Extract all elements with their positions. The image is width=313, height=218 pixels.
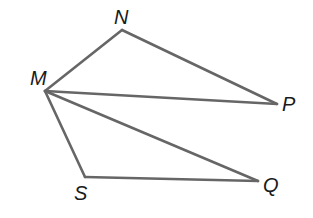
segment-MS — [45, 91, 85, 177]
geometry-diagram: M N P S Q — [0, 0, 313, 218]
labels-group: M N P S Q — [30, 6, 296, 204]
segments-group — [45, 30, 277, 181]
label-S: S — [74, 182, 88, 204]
label-P: P — [282, 93, 296, 115]
segment-SQ — [85, 177, 258, 181]
label-M: M — [30, 67, 47, 89]
segment-NP — [122, 30, 277, 104]
label-Q: Q — [263, 174, 279, 196]
segment-MN — [45, 30, 122, 91]
segment-MP — [45, 91, 277, 104]
label-N: N — [114, 6, 129, 28]
segment-MQ — [45, 91, 258, 181]
